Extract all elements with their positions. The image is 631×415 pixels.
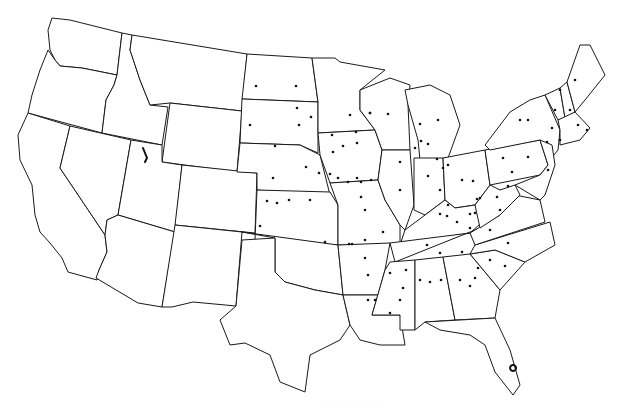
location-marker (502, 157, 505, 160)
location-marker (332, 151, 335, 154)
location-marker (586, 129, 589, 132)
state-maine (567, 45, 605, 112)
location-marker (370, 179, 373, 182)
location-marker (442, 167, 445, 170)
location-marker (574, 79, 577, 82)
location-marker (577, 124, 580, 127)
location-marker (360, 196, 363, 199)
location-marker (554, 109, 557, 112)
location-marker (355, 131, 358, 134)
location-marker (389, 312, 392, 315)
location-marker (305, 166, 308, 169)
location-marker (559, 89, 562, 92)
state-arizona (96, 215, 175, 307)
map-caption: · · · · · · · · (320, 400, 387, 409)
location-marker (310, 116, 313, 119)
location-marker (499, 209, 502, 212)
location-marker (472, 180, 475, 183)
location-marker (496, 196, 499, 199)
state-wyoming (162, 103, 242, 172)
location-marker (296, 107, 299, 110)
location-marker (337, 177, 340, 180)
location-marker (439, 213, 442, 216)
location-marker (474, 212, 477, 215)
location-marker (427, 175, 430, 178)
state-florida (425, 318, 520, 395)
location-marker (387, 113, 390, 116)
location-marker (249, 124, 252, 127)
location-marker (439, 189, 442, 192)
state-iowa (318, 130, 382, 183)
location-marker (259, 225, 262, 228)
state-montana (130, 35, 247, 111)
location-marker (405, 269, 408, 272)
location-marker (504, 265, 507, 268)
location-marker (399, 161, 402, 164)
location-marker (272, 177, 275, 180)
location-marker (559, 139, 562, 142)
location-marker (469, 285, 472, 288)
location-marker (324, 241, 327, 244)
location-marker (367, 299, 370, 302)
location-marker (364, 257, 367, 260)
map-canvas (0, 0, 631, 415)
location-marker (507, 242, 510, 245)
location-marker (436, 158, 439, 161)
location-marker (479, 197, 482, 200)
location-marker (439, 252, 442, 255)
location-marker (298, 124, 301, 127)
location-marker (266, 200, 269, 203)
location-marker (349, 114, 352, 117)
location-marker (476, 198, 479, 201)
location-marker (440, 279, 443, 282)
location-marker (546, 141, 549, 144)
location-marker (295, 85, 298, 88)
location-marker (469, 227, 472, 230)
location-marker (356, 142, 359, 145)
location-marker (288, 199, 291, 202)
state-michigan (405, 85, 460, 160)
location-marker (347, 181, 350, 184)
location-marker (427, 143, 430, 146)
location-marker (318, 172, 321, 175)
location-marker (356, 177, 359, 180)
location-marker (456, 221, 459, 224)
location-marker (447, 164, 450, 167)
state-boundaries (18, 18, 605, 395)
location-marker (274, 145, 277, 148)
location-marker (399, 189, 402, 192)
location-marker (461, 251, 464, 254)
location-marker (469, 213, 472, 216)
location-marker (547, 169, 550, 172)
state-north-dakota (242, 54, 318, 102)
location-marker (489, 259, 492, 262)
location-marker (461, 179, 464, 182)
location-marker (420, 140, 423, 143)
location-marker (331, 134, 334, 137)
location-marker (507, 185, 510, 188)
location-marker (367, 274, 370, 277)
location-marker (426, 244, 429, 247)
location-marker (329, 173, 332, 176)
location-marker (382, 231, 385, 234)
location-marker (569, 109, 572, 112)
location-marker (477, 267, 480, 270)
location-marker (511, 171, 514, 174)
location-marker (527, 119, 530, 122)
location-marker (489, 229, 492, 232)
location-marker (419, 123, 422, 126)
location-marker (399, 299, 402, 302)
location-marker (276, 202, 279, 205)
location-marker (414, 147, 417, 150)
location-marker (342, 145, 345, 148)
location-marker (309, 199, 312, 202)
location-marker (437, 119, 440, 122)
location-marker (527, 156, 530, 159)
location-marker (446, 215, 449, 218)
location-marker (389, 272, 392, 275)
location-marker (519, 119, 522, 122)
location-marker (369, 112, 372, 115)
location-marker (447, 204, 450, 207)
state-colorado (175, 165, 257, 233)
location-marker (255, 85, 258, 88)
